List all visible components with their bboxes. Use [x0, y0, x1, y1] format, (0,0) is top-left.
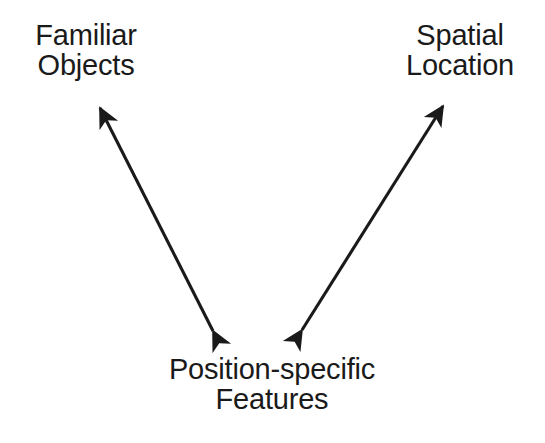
- node-position-specific-features-line-2: Features: [122, 384, 422, 414]
- node-position-specific-features-line-1: Position-specific: [122, 354, 422, 384]
- arrow-familiar-objects-position-specific-features: [100, 108, 213, 331]
- diagram-canvas: Familiar Objects Spatial Location Positi…: [0, 0, 545, 443]
- node-familiar-objects-line-1: Familiar: [6, 20, 166, 50]
- node-spatial-location-line-1: Spatial: [380, 20, 540, 50]
- arrow-spatial-location-position-specific-features: [302, 106, 443, 330]
- node-spatial-location-line-2: Location: [380, 50, 540, 80]
- node-familiar-objects-line-2: Objects: [6, 50, 166, 80]
- node-position-specific-features: Position-specific Features: [122, 354, 422, 414]
- node-spatial-location: Spatial Location: [380, 20, 540, 80]
- node-familiar-objects: Familiar Objects: [6, 20, 166, 80]
